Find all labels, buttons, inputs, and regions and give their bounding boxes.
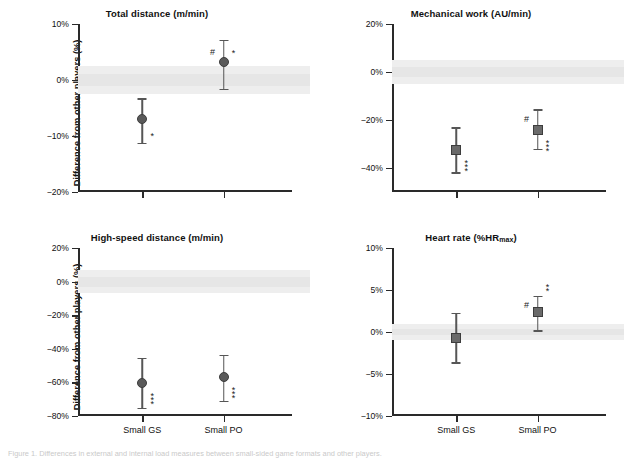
y-axis-label-wrap: Difference from other players (%) [0, 226, 22, 448]
y-axis-line [392, 24, 394, 192]
error-bar-cap [533, 330, 542, 331]
significance-star: * [232, 397, 236, 401]
panel-title: High-speed distance (m/min) [0, 232, 314, 243]
y-axis-tick-label: 20% [366, 19, 383, 29]
x-axis-category-label: Small PO [519, 425, 557, 435]
error-bar-cap [219, 89, 228, 90]
error-bar-cap [452, 127, 461, 128]
y-axis-tick [386, 72, 392, 73]
reference-band [78, 270, 310, 294]
y-axis-tick [72, 315, 78, 316]
error-bar-cap [138, 408, 147, 409]
y-axis-tick-label: −40% [361, 163, 383, 173]
significance-stars: *** [150, 395, 154, 407]
x-axis-line [392, 414, 606, 416]
plot-area: 20%0%−20%−40%−60%−80%Small GSSmall PO***… [78, 248, 292, 416]
x-axis-category-label: Small GS [437, 425, 475, 435]
significance-star: * [150, 403, 154, 407]
reference-band [392, 60, 624, 84]
plot-area: 10%0%−10%−20%*#* [78, 24, 292, 192]
significance-stars: *** [464, 162, 468, 174]
reference-band [78, 66, 310, 94]
x-axis-category-label: Small PO [205, 425, 243, 435]
significance-stars: ** [546, 286, 550, 294]
significance-star: * [546, 150, 550, 154]
data-point-marker [451, 145, 461, 155]
y-axis-tick [72, 416, 78, 417]
significance-stars: * [150, 135, 154, 139]
y-axis-tick-label: −10% [361, 411, 383, 421]
y-axis-tick-label: −20% [361, 115, 383, 125]
significance-stars: *** [546, 142, 550, 154]
x-axis-line [78, 190, 292, 192]
error-bar-cap [452, 313, 461, 314]
x-axis-tick [456, 416, 457, 422]
error-bar-cap [219, 40, 228, 41]
x-axis-tick [224, 192, 225, 198]
significance-stars: * [232, 52, 236, 56]
y-axis-tick [386, 332, 392, 333]
y-axis-tick [386, 120, 392, 121]
reference-band-core [392, 329, 624, 335]
error-bar-cap [219, 355, 228, 356]
plot-area: 10%5%0%−5%−10%Small GSSmall PO#** [392, 248, 606, 416]
y-axis-tick-label: 0% [57, 75, 69, 85]
significance-hash: # [210, 47, 215, 57]
data-point-marker [137, 378, 147, 388]
y-axis-tick [72, 248, 78, 249]
y-axis-tick-label: 10% [366, 243, 383, 253]
panel-high-speed-distance: High-speed distance (m/min) Difference f… [0, 226, 314, 448]
y-axis-tick [72, 382, 78, 383]
significance-star: * [150, 135, 154, 139]
figure-caption: Figure 1. Differences in external and in… [8, 448, 620, 460]
y-axis-tick-label: −80% [47, 411, 69, 421]
error-bar-cap [138, 358, 147, 359]
panel-title: Heart rate (%HRmax) [314, 232, 628, 243]
reference-band [392, 324, 624, 339]
x-axis-tick [142, 416, 143, 422]
y-axis-tick [386, 374, 392, 375]
y-axis-tick-label: 0% [371, 67, 383, 77]
y-axis-tick [386, 290, 392, 291]
y-axis-tick [72, 80, 78, 81]
y-axis-tick-label: 5% [371, 285, 383, 295]
error-bar-cap [452, 172, 461, 173]
panel-total-distance: Total distance (m/min) Difference from o… [0, 2, 314, 224]
y-axis-tick [72, 349, 78, 350]
y-axis-tick [386, 24, 392, 25]
significance-hash: # [524, 300, 529, 310]
y-axis-tick [72, 136, 78, 137]
y-axis-tick-label: −60% [47, 377, 69, 387]
y-axis-tick [72, 24, 78, 25]
y-axis-tick-label: 10% [52, 19, 69, 29]
panel-title: Mechanical work (AU/min) [314, 8, 628, 19]
error-bar-cap [533, 296, 542, 297]
reference-band-core [78, 74, 310, 86]
data-point-marker [219, 57, 229, 67]
x-axis-tick [538, 416, 539, 422]
y-axis-tick-label: 0% [57, 277, 69, 287]
y-axis-label-wrap: Difference from other players (%) [0, 2, 22, 224]
significance-star: * [546, 290, 550, 294]
y-axis-tick-label: −20% [47, 187, 69, 197]
x-axis-category-label: Small GS [123, 425, 161, 435]
data-point-marker [137, 114, 147, 124]
subscript-max: max [499, 236, 513, 243]
significance-star: * [232, 52, 236, 56]
error-bar-cap [138, 143, 147, 144]
reference-band-core [78, 277, 310, 287]
significance-stars: *** [232, 389, 236, 401]
y-axis-tick-label: 0% [371, 327, 383, 337]
significance-hash: # [524, 114, 529, 124]
y-axis-tick-label: −5% [366, 369, 383, 379]
y-axis-tick [72, 192, 78, 193]
error-bar-cap [533, 149, 542, 150]
significance-star: * [464, 170, 468, 174]
data-point-marker [219, 372, 229, 382]
data-point-marker [451, 333, 461, 343]
x-axis-tick [456, 192, 457, 198]
y-axis-line [78, 24, 80, 192]
x-axis-tick [142, 192, 143, 198]
x-axis-tick [538, 192, 539, 198]
figure-root: Total distance (m/min) Difference from o… [0, 0, 628, 460]
